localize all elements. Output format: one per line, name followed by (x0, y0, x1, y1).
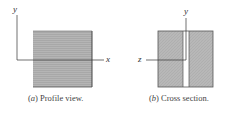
y-axis-label: y (13, 4, 17, 14)
cross-section (146, 18, 213, 87)
caption-b: (b) Cross section. (149, 93, 209, 103)
profile-view (17, 15, 104, 87)
x-axis-label: x (106, 54, 110, 64)
beam-profile (33, 31, 92, 87)
caption-a: (a) Profile view. (28, 93, 83, 103)
y-axis-label-b: y (184, 6, 188, 16)
z-axis-label: z (138, 54, 142, 64)
